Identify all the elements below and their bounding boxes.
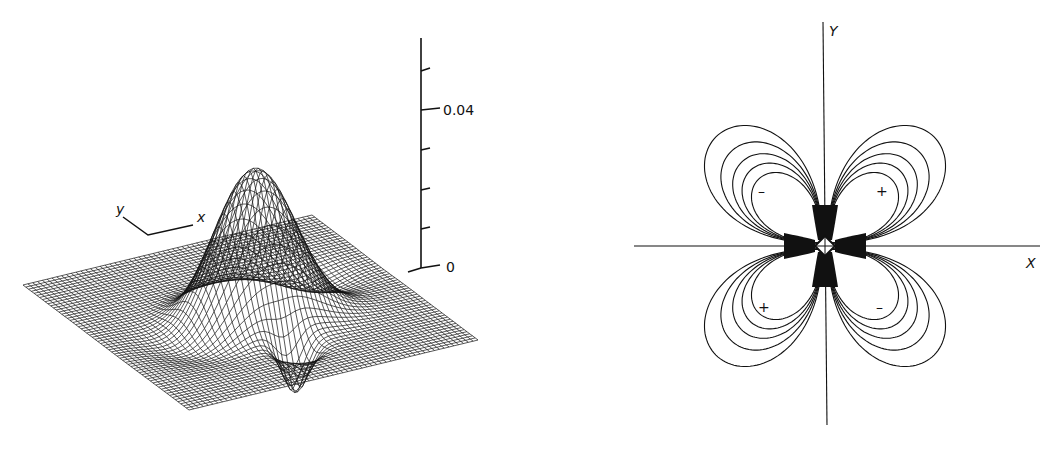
sign-upper-right: + (876, 183, 888, 199)
surface-mesh (23, 168, 478, 410)
orientation-x-label: x (196, 209, 206, 225)
sign-lower-right: – (876, 299, 883, 315)
x-axis-label: X (1025, 255, 1036, 271)
z-tick-label-0: 0 (446, 259, 455, 275)
orientation-axes (123, 217, 193, 235)
orientation-y-label: y (115, 201, 125, 217)
center-node (814, 235, 836, 257)
axes (634, 22, 1040, 425)
z-tick-label-004: 0.04 (443, 102, 474, 118)
surface-plot (23, 168, 478, 410)
y-axis-label: Y (829, 23, 839, 39)
contour-plot (634, 22, 1040, 425)
z-axis (408, 38, 440, 272)
sign-lower-left: + (758, 299, 770, 315)
figure: 0.04 0 y x Y X – + + – (0, 0, 1061, 452)
sign-upper-left: – (758, 183, 765, 199)
